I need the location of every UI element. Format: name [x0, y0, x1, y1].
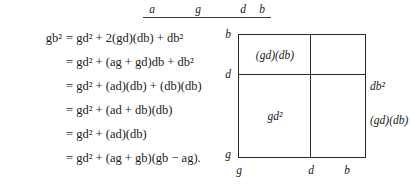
figure-bottom-label-b: b	[341, 164, 353, 176]
equation-block: gb² = gd² + 2(gd)(db) + db² = gd² + (ag …	[0, 26, 218, 170]
equation-line: = gd² + (ad)(db) + (db)(db)	[0, 74, 218, 98]
equation-line: = gd² + (ag + gd)db + db²	[0, 50, 218, 74]
equation-line: = gd² + (ad + db)(db)	[0, 98, 218, 122]
equation-line: = gd² + (ag + gb)(gb − ag).	[0, 146, 218, 170]
figure-bottom-label-g: g	[233, 164, 245, 176]
figure-right-label-gd-db: (gd)(db)	[370, 114, 410, 127]
top-ruler: a g d b	[0, 0, 410, 22]
figure-vertical-divider	[310, 34, 311, 158]
equation-rhs: = gd² + (ad)(db) + (db)(db)	[66, 74, 202, 98]
equation-lhs: gb²	[6, 26, 62, 50]
document-page: a g d b gb² = gd² + 2(gd)(db) + db² = gd…	[0, 0, 410, 187]
ruler-label-b: b	[256, 3, 268, 15]
equation-rhs: = gd² + (ag + gd)db + db²	[66, 50, 194, 74]
figure-left-label-g: g	[222, 148, 234, 160]
figure-bottom-label-d: d	[305, 164, 317, 176]
figure-cell-label-gd-db: (gd)(db)	[244, 49, 306, 62]
equation-rhs: = gd² + 2(gd)(db) + db²	[66, 26, 183, 50]
ruler-label-d: d	[237, 3, 249, 15]
figure-horizontal-divider	[238, 74, 366, 75]
square-figure: b d g g d b (gd)(db) gd² db² (gd)(db)	[218, 22, 410, 187]
figure-right-label-db-squared: db²	[370, 80, 406, 93]
equation-line: gb² = gd² + 2(gd)(db) + db²	[0, 26, 218, 50]
ruler-label-a: a	[146, 3, 158, 15]
figure-cell-label-gd-squared: gd²	[250, 110, 300, 123]
ruler-label-g: g	[192, 3, 204, 15]
equation-line: = gd² + (ad)(db)	[0, 122, 218, 146]
figure-left-label-b: b	[222, 28, 234, 40]
ruler-line	[143, 17, 271, 18]
equation-rhs: = gd² + (ag + gb)(gb − ag).	[66, 146, 201, 170]
figure-left-label-d: d	[222, 68, 234, 80]
equation-rhs: = gd² + (ad)(db)	[66, 122, 147, 146]
equation-rhs: = gd² + (ad + db)(db)	[66, 98, 172, 122]
